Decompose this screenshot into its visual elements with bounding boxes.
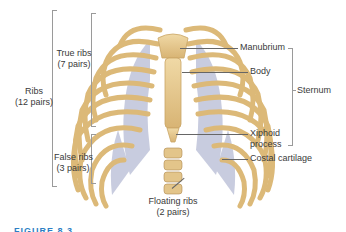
sternum-label: Sternum [297,85,331,96]
xiphoid-leader [176,134,248,135]
sternum-shape [158,34,188,142]
body-leader [182,72,248,73]
floating-ribs-label: Floating ribs (2 pairs) [136,196,210,218]
figure-caption: FIGURE 8.3 [14,226,73,232]
xiphoid-label: Xiphoid process [250,128,282,150]
true-ribs-bracket [91,13,96,127]
sternum-bracket [288,48,293,146]
costal-cartilage-leader [222,159,248,160]
sternum-bracket-tick [292,90,296,91]
false-ribs-label: False ribs (3 pairs) [54,152,92,174]
body-label: Body [250,66,271,77]
costal-cartilage-label: Costal cartilage [250,153,312,164]
ribs-label: Ribs (12 pairs) [14,86,54,108]
manubrium-label: Manubrium [240,42,285,53]
manubrium-leader [180,48,238,49]
true-ribs-label: True ribs (7 pairs) [56,48,92,70]
